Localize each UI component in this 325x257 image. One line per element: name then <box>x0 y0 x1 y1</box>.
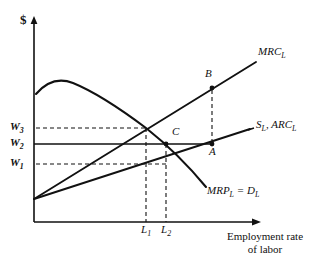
y-tick-label-w2: W2 <box>10 137 24 149</box>
y-tick-w3-text: W <box>10 120 20 132</box>
curve-mrc <box>34 62 256 199</box>
point-label-a: A <box>209 146 216 158</box>
x-axis-title: Employment rate of labor <box>210 230 320 255</box>
curve-label-supply: SL, ARCL <box>256 119 296 131</box>
x-tick-label-l1: L1 <box>141 224 151 236</box>
leader-supply-label <box>248 128 254 130</box>
y-tick-w2-subscript: 2 <box>20 142 24 151</box>
point-C-marker <box>164 142 169 147</box>
y-axis-label: $ <box>20 13 27 27</box>
point-B-marker <box>210 86 215 91</box>
y-tick-w2-text: W <box>10 136 20 148</box>
y-tick-w1-text: W <box>10 156 20 168</box>
x-axis-title-line2: of labor <box>210 243 320 256</box>
curve-label-mrp-text2: = D <box>234 184 255 196</box>
x-tick-l2-subscript: 2 <box>167 229 171 238</box>
point-label-b: B <box>205 68 212 80</box>
y-tick-label-w1: W1 <box>10 157 24 169</box>
y-tick-label-w3: W3 <box>10 121 24 133</box>
x-tick-label-l2: L2 <box>161 224 171 236</box>
curve-label-mrc-text: MRC <box>258 45 281 57</box>
x-tick-l1-subscript: 1 <box>147 229 151 238</box>
curve-label-mrp-text: MRP <box>207 184 230 196</box>
curve-label-mrc: MRCL <box>258 46 286 58</box>
curve-label-mrc-subscript: L <box>281 51 285 60</box>
curve-label-mrp: MRPL = DL <box>207 185 259 197</box>
curve-label-mrp-subscript2: L <box>255 190 259 199</box>
y-axis-arrow-icon <box>31 16 38 24</box>
curve-label-supply-subscript2: L <box>292 124 296 133</box>
x-axis-title-line1: Employment rate <box>210 230 320 243</box>
x-axis-arrow-icon <box>252 219 261 226</box>
y-tick-w1-subscript: 1 <box>20 162 24 171</box>
point-label-c: C <box>172 126 179 138</box>
economics-diagram: $ W3 W2 W1 L1 L2 MRCL SL, ARCL MRPL = DL… <box>0 0 325 257</box>
curve-label-supply-text2: , ARC <box>266 118 292 130</box>
y-tick-w3-subscript: 3 <box>20 126 24 135</box>
